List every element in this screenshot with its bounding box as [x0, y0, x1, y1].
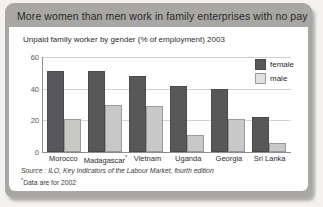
bar-male [64, 119, 81, 152]
legend-item-female: female [255, 59, 294, 70]
x-label: Vietnam [127, 154, 168, 165]
bar-male [187, 135, 204, 152]
bar-female [47, 71, 64, 152]
bar-male [269, 143, 286, 153]
bar-female [170, 86, 187, 153]
x-label: Georgia [209, 154, 250, 165]
legend-label-female: female [270, 60, 294, 69]
legend-swatch-female-icon [255, 59, 266, 70]
chart-title: Unpaid family worker by gender (% of emp… [23, 35, 225, 44]
bar-male [146, 106, 163, 152]
legend-swatch-male-icon [255, 73, 266, 84]
bar-group [208, 57, 249, 152]
x-label: Sri Lanka [249, 154, 290, 165]
bar-female [129, 76, 146, 152]
x-label: Madagascar* [84, 154, 127, 165]
x-label: Morocco [43, 154, 84, 165]
y-tick-20: 20 [13, 116, 39, 125]
chart-panel: Unpaid family worker by gender (% of emp… [9, 27, 308, 191]
bar-group [167, 57, 208, 152]
bar-female [211, 89, 228, 152]
figure-headline: More women than men work in family enter… [5, 3, 312, 28]
chart-figure: More women than men work in family enter… [0, 0, 323, 207]
y-tick-40: 40 [13, 85, 39, 94]
legend: female male [255, 59, 294, 84]
source-note: Source : ILO, Key Indicators of the Labo… [21, 167, 214, 174]
bar-male [105, 105, 122, 153]
bar-male [228, 119, 245, 152]
bar-group [125, 57, 166, 152]
x-label: Uganda [168, 154, 209, 165]
legend-label-male: male [270, 74, 287, 83]
footnote: *Data are for 2002 [21, 177, 76, 186]
legend-item-male: male [255, 73, 294, 84]
bar-group [84, 57, 125, 152]
bar-female [252, 117, 269, 152]
bar-female [88, 71, 105, 152]
bar-groups [43, 57, 290, 152]
bar-group [43, 57, 84, 152]
y-tick-60: 60 [13, 53, 39, 62]
x-axis-labels: MoroccoMadagascar*VietnamUgandaGeorgiaSr… [43, 154, 290, 165]
footnote-text: Data are for 2002 [23, 179, 76, 186]
y-tick-0: 0 [13, 148, 39, 157]
